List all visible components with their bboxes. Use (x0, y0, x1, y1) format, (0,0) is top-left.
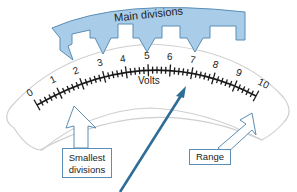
range-label: Range (196, 151, 224, 162)
minor-tick (187, 69, 188, 76)
minor-tick (208, 74, 210, 81)
minor-tick (108, 72, 110, 79)
scale-ticks (34, 64, 259, 110)
minor-tick (121, 70, 122, 77)
minor-tick (99, 75, 101, 82)
minor-tick (135, 68, 136, 75)
minor-tick (178, 68, 179, 75)
minor-tick (183, 68, 184, 75)
minor-tick (195, 71, 196, 78)
voltmeter-scale-diagram: Main divisions Volts 012345678910 Smalle… (0, 0, 297, 192)
meter-face (0, 0, 297, 192)
unit-label: Volts (138, 75, 160, 86)
smallest-divisions-line2: divisions (63, 164, 111, 176)
needle-tip-icon (176, 86, 186, 98)
tick-label-6: 6 (167, 50, 173, 61)
smallest-divisions-callout: Smallest divisions (62, 148, 112, 178)
needle (120, 94, 182, 192)
minor-tick (200, 72, 202, 79)
tick-label-5: 5 (143, 50, 149, 61)
minor-tick (117, 70, 118, 77)
minor-tick (174, 67, 175, 74)
smallest-divisions-line1: Smallest (63, 152, 111, 164)
range-callout: Range (189, 149, 231, 165)
minor-tick (204, 73, 206, 80)
minor-tick (139, 67, 140, 74)
major-tick (125, 66, 127, 78)
minor-tick (112, 71, 113, 78)
major-tick (170, 65, 171, 77)
major-tick (34, 100, 40, 110)
minor-tick (130, 68, 131, 75)
major-tick (253, 91, 259, 102)
smallest-divisions-arrow (66, 106, 96, 148)
